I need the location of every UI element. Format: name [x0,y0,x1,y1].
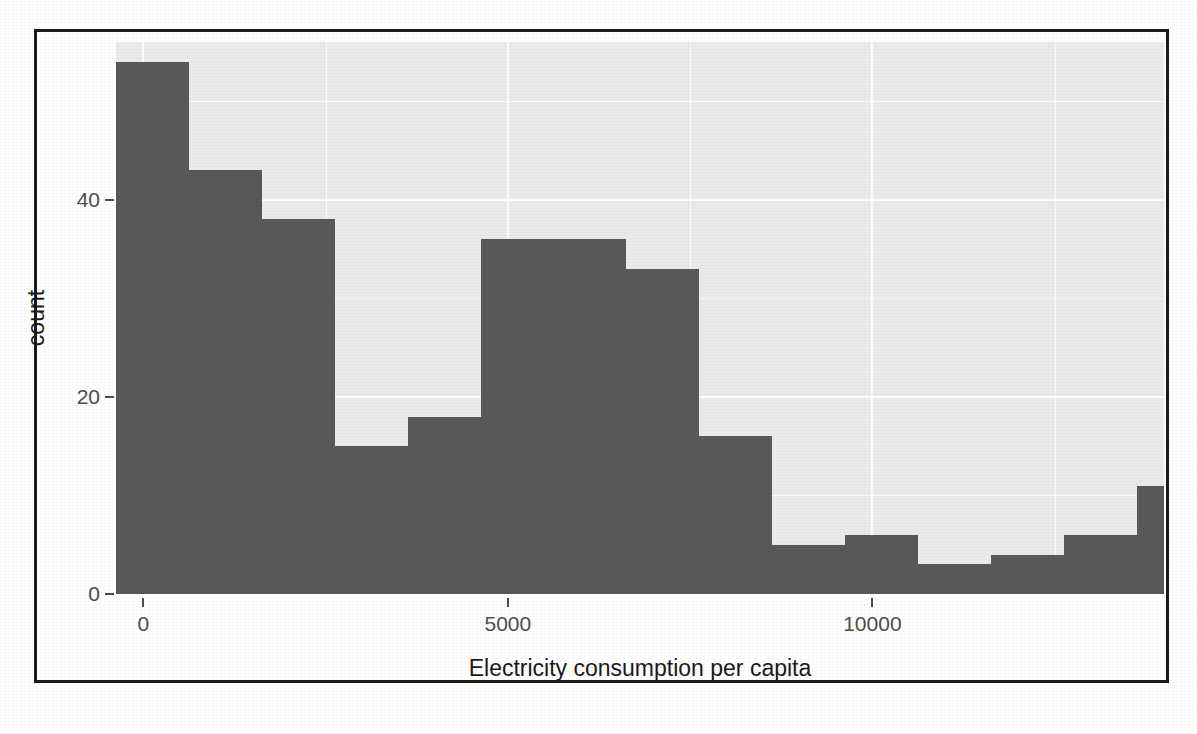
histogram-bar [481,239,554,594]
y-axis-tick-label: 0 [60,582,100,606]
histogram-bar [1064,535,1137,594]
y-axis-title: count [23,290,50,346]
y-axis-tick-mark [105,396,114,398]
x-axis-tick-mark [142,598,144,607]
histogram-bar [408,417,481,594]
histogram-bar [991,555,1064,594]
histogram-bar [626,269,699,594]
y-axis-tick-mark [105,199,114,201]
x-axis-title: Electricity consumption per capita [116,655,1164,682]
histogram-bar [116,62,189,594]
histogram-bar [335,446,408,594]
histogram-bar [189,170,262,594]
histogram-figure: 02040 0500010000 Electricity consumption… [0,0,1197,734]
x-axis-tick-label: 5000 [485,612,532,636]
histogram-bar [772,545,845,594]
plot-panel [116,42,1164,594]
y-axis-tick-mark [105,593,114,595]
histogram-bar [845,535,918,594]
y-axis-tick-label: 40 [60,188,100,212]
histogram-bar [918,564,991,594]
histogram-bar [262,219,335,594]
histogram-bar [553,239,626,594]
y-axis-tick-label: 20 [60,385,100,409]
histogram-bars [116,42,1164,594]
histogram-bar [699,436,772,594]
histogram-bar [1137,486,1164,594]
x-axis-tick-label: 0 [137,612,149,636]
x-axis-tick-label: 10000 [843,612,901,636]
x-axis-tick-mark [871,598,873,607]
x-axis-tick-mark [507,598,509,607]
